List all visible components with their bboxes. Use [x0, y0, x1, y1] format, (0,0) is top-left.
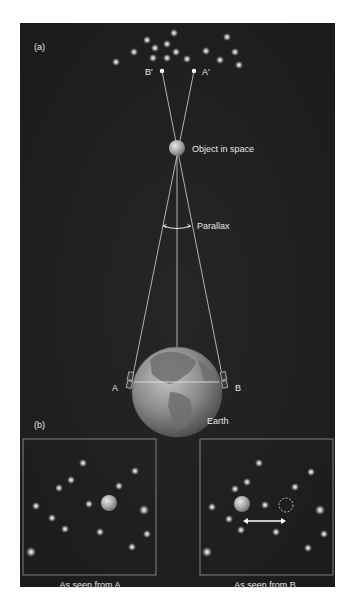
- observer-b-label: B: [235, 383, 241, 393]
- point-a-prime-label: A′: [202, 67, 210, 77]
- object-label: Object in space: [192, 144, 254, 154]
- panel-a-label: (a): [34, 42, 45, 52]
- sphere-icon: [234, 496, 250, 512]
- sphere-icon: [169, 140, 185, 156]
- panel-b-label: (b): [34, 420, 45, 430]
- point-b-prime-label: B′: [145, 67, 153, 77]
- view-from-a-caption: As seen from A: [59, 580, 120, 590]
- earth-label: Earth: [207, 416, 229, 426]
- view-from-b-caption: As seen from B: [234, 580, 296, 590]
- observer-a-label: A: [112, 383, 118, 393]
- parallax-label: Parallax: [197, 221, 230, 231]
- parallax-figure: (a) B′ A′: [0, 0, 353, 609]
- parallax-diagram: (a) B′ A′: [0, 0, 353, 609]
- sphere-icon: [101, 495, 117, 511]
- figure-frame: [20, 23, 335, 587]
